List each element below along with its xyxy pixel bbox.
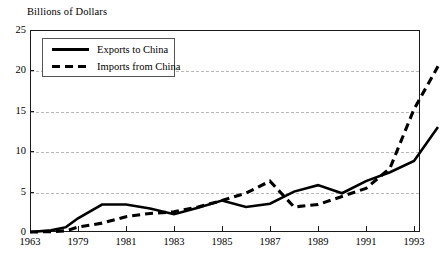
legend-label-imports: Imports from China [97, 58, 180, 75]
x-tick-label-1993: 1993 [404, 236, 425, 248]
y-axis-title: Billions of Dollars [27, 6, 107, 18]
legend-swatch-dashed-icon [52, 65, 89, 68]
x-tick-label-1987: 1987 [260, 236, 281, 248]
y-tick-label-10: 10 [2, 146, 26, 156]
y-tick-label-20: 20 [2, 65, 26, 75]
legend-row-exports: Exports to China [43, 41, 174, 58]
legend-label-exports: Exports to China [97, 41, 168, 58]
x-tick-label-1985: 1985 [212, 236, 233, 248]
legend-swatch-solid-icon [52, 48, 89, 51]
chart-legend: Exports to China Imports from China [42, 38, 175, 77]
y-tick-label-25: 25 [2, 25, 26, 35]
x-axis-labels: 1963 1979 1981 1983 1985 1987 1989 1991 … [0, 236, 443, 254]
y-tick-label-5: 5 [2, 187, 26, 197]
x-tick-label-1989: 1989 [308, 236, 329, 248]
series-line-imports [30, 66, 438, 232]
x-tick-label-1979: 1979 [68, 236, 89, 248]
x-tick-label-1963: 1963 [20, 236, 41, 248]
x-tick-label-1991: 1991 [356, 236, 377, 248]
y-tick-label-15: 15 [2, 106, 26, 116]
y-axis-labels: 25 20 15 10 5 0 [0, 30, 26, 232]
legend-row-imports: Imports from China [43, 58, 174, 75]
x-tick-label-1983: 1983 [164, 236, 185, 248]
chart-figure: Billions of Dollars 25 20 15 10 5 0 1963 [0, 0, 443, 269]
x-tick-label-1981: 1981 [116, 236, 137, 248]
